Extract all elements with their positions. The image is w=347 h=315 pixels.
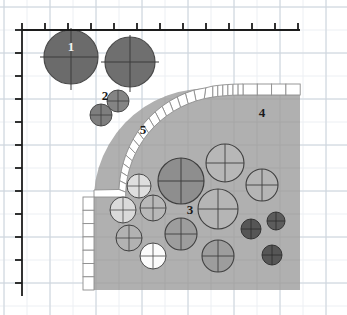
- sphere-inside-outline-lower: [116, 225, 142, 251]
- sphere-inside-dark-small-2: [267, 212, 285, 230]
- callout-label-1: 1: [68, 39, 75, 54]
- sphere-inside-white-low: [140, 243, 166, 269]
- sphere-inside-outline-top: [206, 144, 244, 182]
- callout-label-3: 3: [187, 202, 194, 217]
- sphere-inside-outline-small: [140, 195, 166, 221]
- sphere-inside-dark-small-3: [262, 245, 282, 265]
- sphere-inside-outline-right: [246, 169, 278, 201]
- diagram-svg: 1 2 3 4 5: [0, 0, 347, 315]
- sphere-inside-dark-large: [158, 158, 204, 204]
- sphere-inside-light-left: [110, 197, 136, 223]
- callout-label-2: 2: [102, 88, 109, 103]
- callout-label-5: 5: [140, 122, 147, 137]
- sphere-outside-small-2: [90, 104, 112, 126]
- sphere-inside-grey-mid: [165, 218, 197, 250]
- sphere-inside-light-upper: [127, 174, 151, 198]
- sphere-inside-grey-low: [202, 240, 234, 272]
- figure-canvas: 1 2 3 4 5: [0, 0, 347, 315]
- sphere-inside-outline-mid: [198, 189, 238, 229]
- callout-label-4: 4: [259, 105, 266, 120]
- sphere-inside-dark-small-1: [241, 219, 261, 239]
